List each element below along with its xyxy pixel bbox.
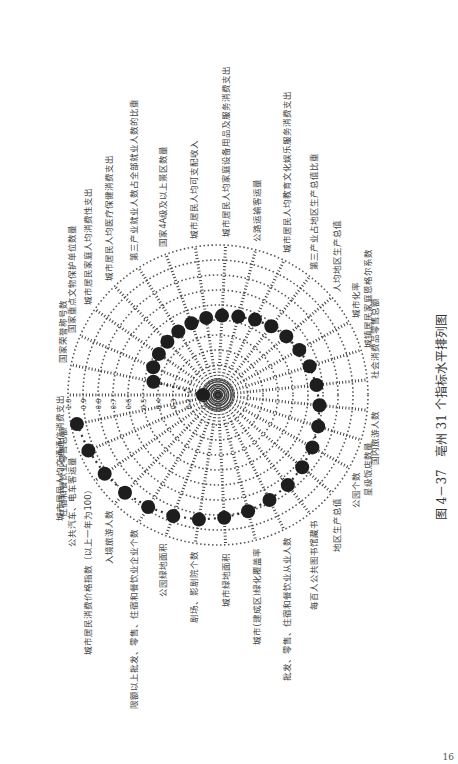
radar-chart: 城市居民人均交通通信消费支出国家荣誉称号数国家重点文物保护单位数量城市居民家庭人… [0,0,458,764]
data-point [160,335,174,349]
axis-label: 批发、零售、住宿和餐饮业从业人数 [282,537,292,681]
axis-label: 公路运输客运量 [252,179,262,242]
tick-label: 0.9 [80,398,88,409]
data-point [313,398,327,412]
data-point [146,375,160,389]
data-point [281,478,295,492]
data-point [310,378,324,392]
axis-label: 公园个数 [351,472,361,508]
data-point [118,486,132,500]
data-point [248,313,262,327]
tick-label: 0.6 [125,398,133,410]
axis-label: 公共汽车、电车客运量 [67,457,77,547]
data-point [184,316,198,330]
page-number: 16 [443,752,454,762]
axis-spoke [218,395,361,440]
data-point [231,310,245,324]
data-point [215,309,229,323]
data-point [263,493,277,507]
tick-label: 0.2 [185,398,193,409]
axis-label: 城市居民家庭人均消费性支出 [83,188,93,305]
axis-label: 人均地区生产总值 [332,220,342,292]
axis-label: 城市居民人均可支配收入 [189,140,199,239]
tick-label: 0.5 [140,398,148,409]
axis-spoke [218,276,310,395]
axis-label: 城市绿地面积 [221,553,231,607]
data-point [152,347,166,361]
axis-label: 每百人公共图书馆藏书 [309,520,319,610]
axis-label: 国家荣誉称号数 [58,300,68,363]
data-point [311,419,325,433]
tick-label: 0.4 [155,398,163,410]
tick-label: 0.0 [215,398,223,409]
tick-label: 0.7 [110,398,118,409]
axis-label: 星级饭店数量 [363,442,373,496]
tick-label: 1.0 [65,398,73,409]
axis-label: 城市化率 [351,282,361,318]
axis-label: 地区生产总值 [332,498,342,552]
data-point [70,417,84,431]
data-point [199,311,213,325]
axis-label: 剧场、影剧院个数 [189,551,199,623]
figure-caption: 图 4－37 亳州 31 个指标水平排列图 [434,314,449,520]
data-point [192,513,206,527]
data-point [264,319,278,333]
data-point [171,324,185,338]
data-point [303,359,317,373]
data-point [81,444,95,458]
data-point [166,509,180,523]
axis-label: 城市居民人均家庭设备用品及服务消费支出 [221,66,231,237]
data-point [295,460,309,474]
axis-label: 限额以上批发、零售、住宿和餐饮业企业个数 [129,529,139,709]
axis-label: 住宿和餐饮业零售总额 [58,427,68,517]
axis-label: 入境旅游人数 [104,510,114,564]
axis-label: 公园绿地面积 [158,543,168,597]
data-point [241,504,255,518]
axis-label: 第三产业占地区生产总值比重 [309,153,319,270]
axis-label: 国家重点文物保护单位数量 [67,225,77,333]
axis-label: 城市居民人均教育文化娱乐服务消费支出 [282,91,292,253]
data-point [279,329,293,343]
axis-label: 第三产业就业人数占全部就业人数的比重 [129,99,139,261]
axis-spoke [218,350,361,395]
axis-label: 社会消费品零售总额 [370,298,380,379]
axis-label: 城市居民人均医疗保健消费支出 [104,155,114,281]
data-point [305,440,319,454]
radial-tick-labels: 0.00.10.20.30.40.50.60.70.80.91.0 [65,398,223,410]
data-point [141,500,155,514]
axis-label: 城市居民消费价格指数（以上一年为100） [83,485,93,654]
axis-label: 国家4A级及以上景区数量 [158,146,168,247]
tick-label: 0.8 [95,398,103,409]
data-point [217,511,231,525]
data-point [98,467,112,481]
data-point [292,343,306,357]
tick-label: 0.3 [170,398,178,409]
axis-spoke [71,365,218,395]
data-point [146,360,160,374]
axis-label: 城市(建成区)绿化覆盖率 [252,548,262,645]
tick-label: 0.1 [200,398,208,409]
